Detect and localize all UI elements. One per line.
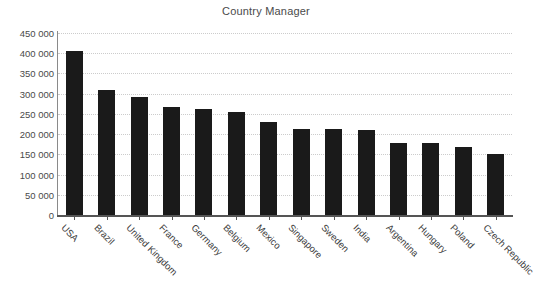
x-axis-tick-mark [204,215,205,220]
bar[interactable] [260,122,277,215]
bar[interactable] [163,107,180,215]
gridline [58,154,512,155]
gridline [58,175,512,176]
x-axis-tick-label: Mexico [254,222,283,251]
y-axis-tick-label: 100 000 [2,169,54,180]
gridline [58,114,512,115]
bar[interactable] [66,51,83,215]
y-axis-tick-label: 0 [2,210,54,221]
x-axis-tick-label: India [351,222,373,244]
gridline [58,73,512,74]
x-axis-tick-label: France [157,222,186,251]
x-axis-tick-mark [301,215,302,220]
x-axis-tick-label: Sweden [319,222,351,254]
x-axis-tick-label: Brazil [92,222,117,247]
x-axis-tick-label: Belgium [222,222,254,254]
bar[interactable] [455,147,472,215]
bar[interactable] [293,129,310,215]
x-axis-tick-mark [107,215,108,220]
x-axis-tick-mark [139,215,140,220]
y-axis-tick-label: 350 000 [2,68,54,79]
bar[interactable] [422,143,439,215]
y-axis-tick-label: 150 000 [2,149,54,160]
y-axis-tick-label: 450 000 [2,28,54,39]
x-axis-tick-mark [236,215,237,220]
bar[interactable] [98,90,115,215]
bar[interactable] [325,129,342,215]
y-axis-tick-labels: 050 000100 000150 000200 000250 000300 0… [0,0,54,294]
x-axis-tick-label: Singapore [286,222,324,260]
x-axis-line [57,215,513,217]
x-axis-tick-label: Germany [189,222,224,257]
bar[interactable] [358,130,375,215]
x-axis-tick-mark [366,215,367,220]
x-axis-tick-label: Argentina [384,222,421,259]
gridline [58,33,512,34]
gridline [58,134,512,135]
y-axis-tick-label: 300 000 [2,88,54,99]
x-axis-tick-label: Czech Republic [481,222,536,277]
chart-title: Country Manager [0,5,532,17]
x-axis-tick-mark [399,215,400,220]
y-axis-tick-label: 50 000 [2,189,54,200]
y-axis-tick-label: 200 000 [2,129,54,140]
bar[interactable] [228,112,245,215]
bar[interactable] [195,109,212,215]
x-axis-tick-mark [496,215,497,220]
x-axis-tick-mark [172,215,173,220]
x-axis-tick-label: USA [59,222,81,244]
gridline [58,94,512,95]
gridline [58,53,512,54]
y-axis-tick-label: 250 000 [2,108,54,119]
x-axis-tick-label: Poland [449,222,478,251]
x-axis-tick-mark [74,215,75,220]
gridline [58,195,512,196]
x-axis-tick-mark [431,215,432,220]
bar[interactable] [390,143,407,215]
x-axis-tick-mark [269,215,270,220]
x-axis-tick-mark [334,215,335,220]
y-axis-tick-label: 400 000 [2,48,54,59]
bar[interactable] [131,97,148,216]
bar[interactable] [487,154,504,215]
plot-area [58,33,512,215]
x-axis-tick-mark [463,215,464,220]
